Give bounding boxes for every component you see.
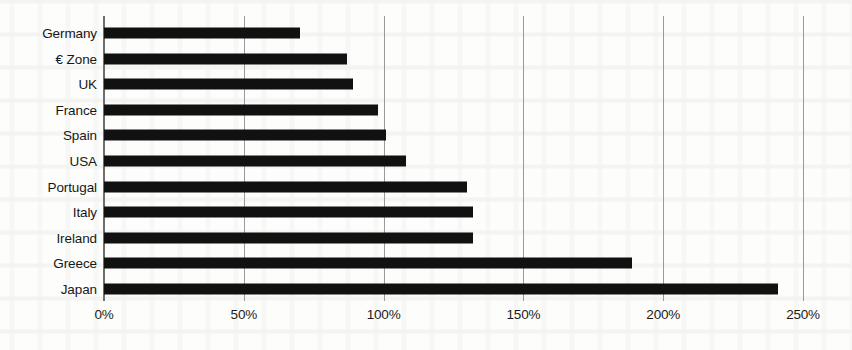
bar	[104, 130, 386, 141]
plot-area: 0%50%100%150%200%250%Germany€ ZoneUKFran…	[0, 0, 852, 350]
bar	[104, 79, 353, 90]
x-tick-label: 50%	[231, 307, 257, 322]
bar	[104, 104, 378, 115]
bar	[104, 156, 406, 167]
category-label: Portugal	[48, 179, 97, 194]
category-label: UK	[78, 77, 97, 92]
x-tick-label: 250%	[786, 307, 820, 322]
category-label: Japan	[61, 282, 97, 297]
x-tick-label: 150%	[507, 307, 541, 322]
gridline-250	[803, 16, 804, 301]
x-tick-label: 100%	[367, 307, 401, 322]
gridline-200	[663, 16, 664, 301]
chart-page: 0%50%100%150%200%250%Germany€ ZoneUKFran…	[0, 0, 852, 350]
bar	[104, 181, 467, 192]
bar	[104, 232, 473, 243]
bar	[104, 207, 473, 218]
category-label: € Zone	[56, 51, 97, 66]
x-tick-label: 0%	[94, 307, 113, 322]
bar	[104, 258, 632, 269]
category-label: Greece	[53, 256, 97, 271]
bar	[104, 284, 778, 295]
bar	[104, 28, 300, 39]
category-label: Ireland	[56, 230, 97, 245]
category-label: Germany	[42, 26, 97, 41]
category-label: USA	[70, 154, 97, 169]
bar	[104, 53, 347, 64]
category-label: Italy	[73, 205, 97, 220]
category-label: France	[56, 102, 97, 117]
x-tick-label: 200%	[646, 307, 680, 322]
category-label: Spain	[63, 128, 97, 143]
